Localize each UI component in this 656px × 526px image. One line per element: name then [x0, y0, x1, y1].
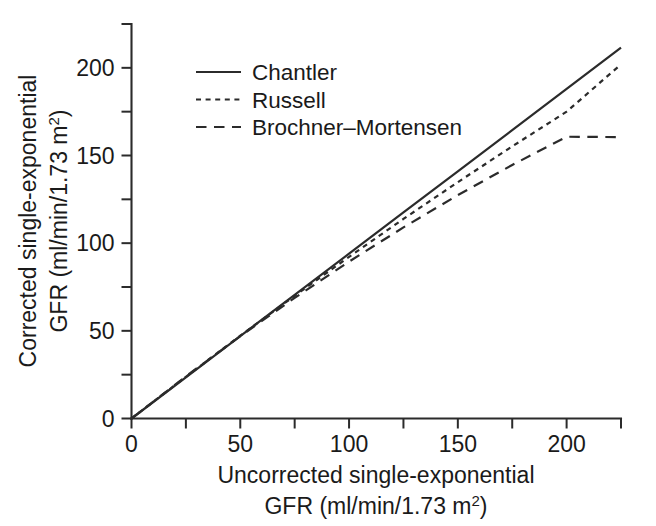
y-axis-tick-labels: 050100150200	[76, 55, 114, 432]
x-axis-title-line2-prefix: GFR (ml/min/1.73 m	[264, 493, 471, 519]
data-series-group	[132, 48, 622, 419]
y-tick-label: 0	[102, 406, 115, 432]
y-tick-label: 200	[76, 55, 114, 81]
chart-legend: ChantlerRussellBrochner–Mortensen	[196, 60, 462, 140]
legend-label: Russell	[252, 88, 326, 113]
legend-label: Chantler	[252, 60, 338, 85]
figure-container: 050100150200 050100150200 ChantlerRussel…	[0, 0, 656, 526]
x-axis-title: Uncorrected single-exponential GFR (ml/m…	[217, 462, 534, 519]
y-axis-title-line2-sup: 2	[45, 117, 62, 125]
x-axis-title-line2-suffix: )	[480, 493, 488, 519]
series-line-brochner-mortensen	[132, 137, 622, 419]
x-axis-tick-labels: 050100150200	[125, 431, 586, 457]
y-axis-title-line2: GFR (ml/min/1.73 m2)	[45, 109, 72, 332]
x-axis-ticks	[132, 419, 622, 429]
y-axis-title: Corrected single-exponential GFR (ml/min…	[15, 75, 72, 368]
x-axis-title-line1: Uncorrected single-exponential	[217, 462, 534, 488]
x-tick-label: 100	[330, 431, 368, 457]
y-tick-label: 150	[76, 143, 114, 169]
axes-group	[131, 24, 621, 419]
y-axis-title-line1: Corrected single-exponential	[15, 75, 41, 368]
gfr-correction-line-chart: 050100150200 050100150200 ChantlerRussel…	[0, 0, 656, 526]
y-axis-title-line2-suffix: )	[46, 109, 72, 117]
x-axis-title-line2: GFR (ml/min/1.73 m2)	[264, 492, 487, 519]
y-tick-label: 100	[76, 230, 114, 256]
x-tick-label: 200	[547, 431, 585, 457]
x-tick-label: 0	[125, 431, 138, 457]
y-axis-ticks	[122, 24, 132, 419]
y-tick-label: 50	[89, 318, 115, 344]
x-tick-label: 50	[227, 431, 253, 457]
y-axis-title-line2-prefix: GFR (ml/min/1.73 m	[46, 125, 72, 332]
legend-label: Brochner–Mortensen	[252, 115, 462, 140]
x-tick-label: 150	[439, 431, 477, 457]
x-axis-title-line2-sup: 2	[472, 492, 480, 509]
